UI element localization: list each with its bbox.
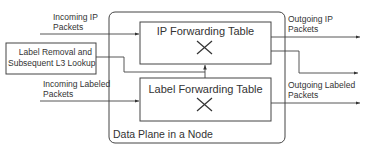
outgoing-labeled-line2: Packets (288, 90, 355, 100)
incoming-labeled-line1: Incoming Labeled (43, 79, 110, 89)
incoming-labeled-label: Incoming Labeled Packets (43, 79, 110, 99)
label-removal-line1: Label Removal and (8, 47, 92, 58)
label-forwarding-table-title: Label Forwarding Table (140, 83, 271, 95)
data-plane-label: Data Plane in a Node (113, 128, 213, 140)
outgoing-labeled-line1: Outgoing Labeled (288, 80, 355, 90)
label-removal-text: Label Removal and Subsequent L3 Lookup (8, 47, 92, 69)
outgoing-ip-line2: Packets (288, 24, 333, 34)
ip-to-labeled-path (271, 51, 358, 73)
outgoing-labeled-label: Outgoing Labeled Packets (288, 80, 355, 100)
incoming-ip-label: Incoming IP Packets (53, 12, 98, 32)
outgoing-ip-line1: Outgoing IP (288, 14, 333, 24)
label-removal-line2: Subsequent L3 Lookup (8, 58, 92, 69)
outgoing-ip-label: Outgoing IP Packets (288, 14, 333, 34)
incoming-ip-line2: Packets (53, 22, 98, 32)
incoming-labeled-line2: Packets (43, 89, 110, 99)
incoming-ip-line1: Incoming IP (53, 12, 98, 22)
ip-forwarding-table-title: IP Forwarding Table (140, 25, 271, 37)
